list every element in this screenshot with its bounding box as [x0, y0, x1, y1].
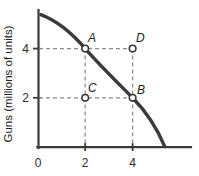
- ppf-curve-path: [41, 15, 165, 147]
- point-marker-a: [82, 45, 89, 52]
- x-tick-label-2: 2: [82, 156, 89, 170]
- y-axis-title-group: Guns (millions of units): [2, 25, 14, 142]
- point-marker-b: [129, 95, 136, 102]
- chart-canvas: A B C D 4 2 0 2 4 Guns (millions of unit…: [0, 0, 199, 176]
- point-label-c: C: [88, 81, 97, 95]
- point-marker-c: [82, 95, 89, 102]
- x-tick-label-4: 4: [129, 156, 136, 170]
- point-label-b: B: [137, 83, 145, 97]
- ppf-curve-group: [41, 15, 165, 147]
- y-axis-title: Guns (millions of units): [2, 25, 14, 142]
- point-label-a: A: [87, 31, 96, 45]
- point-label-d: D: [136, 31, 145, 45]
- y-tick-label-2: 2: [22, 91, 29, 105]
- point-marker-d: [129, 45, 136, 52]
- y-tick-label-4: 4: [22, 42, 29, 56]
- point-labels-group: A B C D: [87, 31, 145, 97]
- x-tick-label-0: 0: [35, 156, 42, 170]
- ppf-chart: A B C D 4 2 0 2 4 Guns (millions of unit…: [0, 0, 199, 176]
